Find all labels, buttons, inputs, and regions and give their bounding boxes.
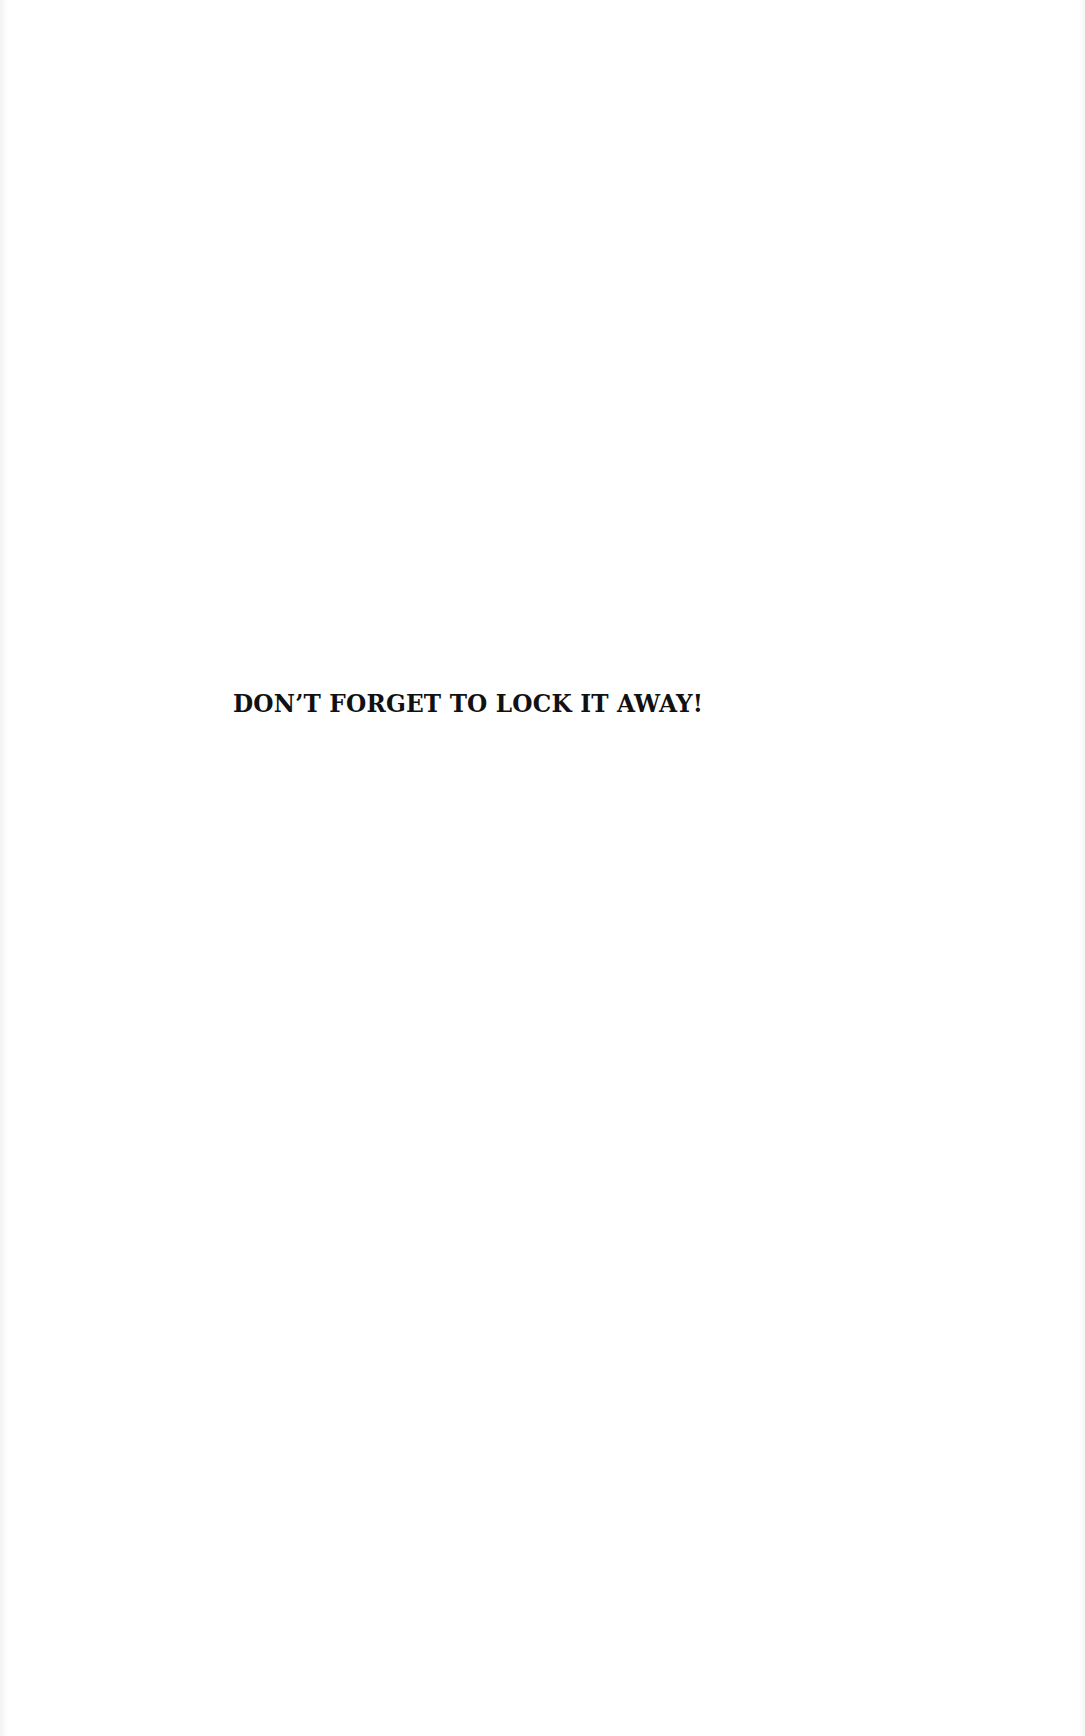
book-page: DON’T FORGET TO LOCK IT AWAY! [0,0,1085,1736]
page-left-edge-shadow [0,0,8,1736]
page-right-edge-shadow [1079,0,1085,1736]
page-headline: DON’T FORGET TO LOCK IT AWAY! [233,684,763,724]
